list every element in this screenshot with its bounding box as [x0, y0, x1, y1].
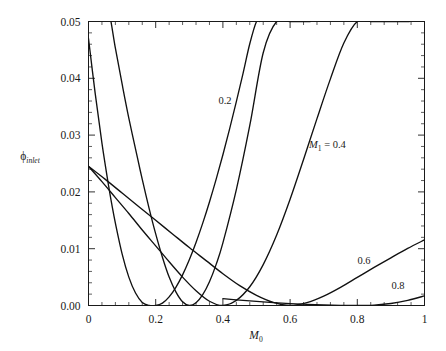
- x-tick-label: 0.2: [149, 313, 164, 325]
- x-tick-label: 0.4: [216, 313, 231, 325]
- chart-svg: 00.20.40.60.81 0.000.010.020.030.040.05 …: [0, 0, 446, 351]
- y-tick-label: 0.05: [60, 16, 80, 28]
- x-tick-label: 0.8: [350, 313, 365, 325]
- y-tick-label: 0.01: [60, 243, 80, 255]
- y-tick-label: 0.04: [60, 72, 80, 84]
- curve-label-0_2: 0.2: [218, 95, 231, 106]
- figure-container: 00.20.40.60.81 0.000.010.020.030.040.05 …: [0, 0, 446, 351]
- x-tick-label: 0.6: [283, 313, 298, 325]
- curve-label-0_6: 0.6: [357, 255, 370, 266]
- y-tick-label: 0.00: [60, 300, 80, 312]
- y-tick-label: 0.02: [60, 186, 80, 198]
- x-tick-label: 0: [86, 313, 92, 325]
- y-tick-label: 0.03: [60, 129, 80, 141]
- curve-label-0_8: 0.8: [391, 280, 404, 291]
- x-tick-label: 1: [422, 313, 428, 325]
